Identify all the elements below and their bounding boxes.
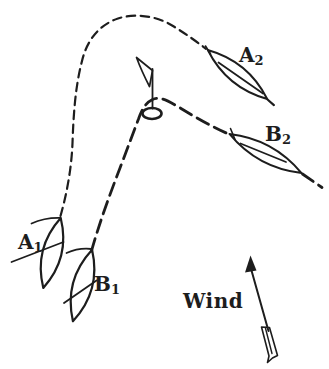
- boat-b2-label-main: B: [265, 122, 282, 146]
- wind-arrow-shaft: [251, 268, 269, 331]
- boat-b1-label: B1: [94, 274, 120, 296]
- wind-label: Wind: [183, 291, 243, 311]
- buoy-ellipse: [143, 108, 162, 119]
- mark-buoy: [137, 58, 162, 120]
- boat-a2-label-main: A: [239, 43, 255, 67]
- boat-a2-label: A2: [239, 45, 264, 67]
- boat-b-track: [92, 98, 323, 251]
- boat-b1-label-main: B: [94, 272, 111, 296]
- boat-b1-label-sub: 1: [111, 282, 120, 297]
- flag-pennant-icon: [137, 58, 153, 87]
- boat-a1-label: A1: [18, 232, 43, 254]
- boat-a2-label-sub: 2: [255, 53, 264, 68]
- boat-b1-bow-line: [67, 249, 92, 253]
- sailing-rounding-diagram: A1 B1 A2 B2 Wind: [0, 0, 329, 369]
- wind-arrow-icon: [245, 256, 278, 363]
- boat-a1-label-sub: 1: [34, 240, 43, 255]
- boat-b2-label: B2: [265, 124, 291, 146]
- boat-a1-label-main: A: [18, 230, 34, 254]
- diagram-canvas: [0, 0, 329, 369]
- wind-arrow-head: [245, 256, 257, 273]
- boat-b2-label-sub: 2: [282, 132, 291, 147]
